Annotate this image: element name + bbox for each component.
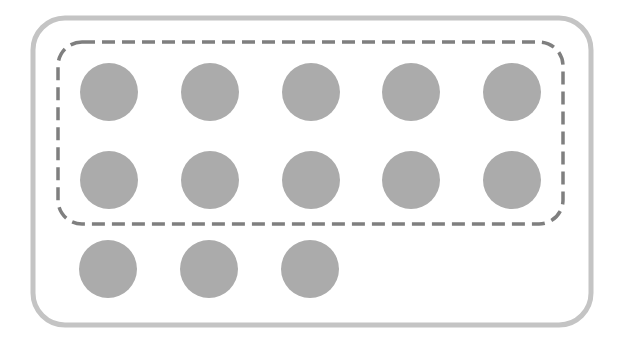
grouped-item-circle [382,63,440,121]
grouped-item-circle [483,151,541,209]
grouped-item-circle [483,63,541,121]
grouped-item-circle [181,151,239,209]
diagram-svg [0,0,624,347]
ungrouped-item-circle [79,240,137,298]
grouped-item-circle [80,151,138,209]
grouped-item-circle [181,63,239,121]
items-layer [79,63,541,298]
grouped-item-circle [80,63,138,121]
ungrouped-item-circle [281,240,339,298]
grouped-item-circle [382,151,440,209]
ungrouped-item-circle [180,240,238,298]
grouped-item-circle [282,63,340,121]
diagram-canvas [0,0,624,347]
grouped-item-circle [282,151,340,209]
